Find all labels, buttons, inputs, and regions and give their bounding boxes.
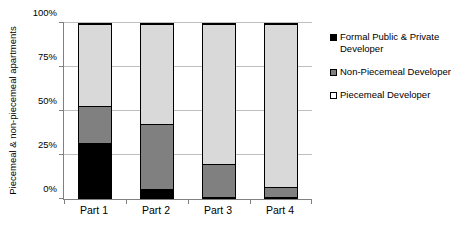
x-axis-label: Part 2 [125,203,187,217]
x-axis-label: Part 3 [187,203,249,217]
bar-slot [188,23,250,199]
bar-segment[interactable] [203,197,235,199]
stacked-bar[interactable] [264,23,298,199]
stacked-bar[interactable] [78,23,112,199]
x-tick-mark [311,199,312,204]
y-tick-label: 100% [33,8,64,18]
stacked-bar[interactable] [140,23,174,199]
stacked-bar[interactable] [202,23,236,199]
bar-slot [64,23,126,199]
x-axis-label: Part 4 [249,203,311,217]
stacked-bar-chart: Piecemeal & non-piecemeal apartments 0%2… [0,0,456,236]
y-tick-label: 50% [38,96,64,106]
bar-segment[interactable] [203,164,235,197]
bar-segment[interactable] [265,24,297,187]
legend-item[interactable]: Formal Public & Private Developer [330,31,454,55]
bar-segment[interactable] [141,24,173,124]
y-tick-label: 75% [38,52,64,62]
legend-swatch-icon [330,69,337,76]
legend-item[interactable]: Piecemeal Developer [330,89,454,101]
legend-label: Piecemeal Developer [340,89,430,101]
bar-segment[interactable] [79,143,111,199]
bar-segment[interactable] [265,197,297,199]
x-axis-labels: Part 1Part 2Part 3Part 4 [63,203,311,217]
bar-segment[interactable] [79,106,111,143]
bar-group [64,23,312,199]
legend-item[interactable]: Non-Piecemeal Developer [330,66,454,78]
legend-label: Non-Piecemeal Developer [340,66,451,78]
bar-segment[interactable] [141,189,173,200]
bar-segment[interactable] [79,24,111,106]
y-tick-label: 0% [43,184,64,194]
bar-slot [250,23,312,199]
y-axis-title: Piecemeal & non-piecemeal apartments [7,16,18,206]
plot-area: 0%25%50%75%100% [63,23,312,200]
y-tick-label: 25% [38,140,64,150]
bar-segment[interactable] [203,24,235,164]
bar-segment[interactable] [141,124,173,189]
bar-segment[interactable] [265,187,297,198]
bar-slot [126,23,188,199]
legend-swatch-icon [330,92,337,99]
legend-label: Formal Public & Private Developer [340,31,454,55]
x-axis-label: Part 1 [63,203,125,217]
chart-legend: Formal Public & Private DeveloperNon-Pie… [330,31,454,112]
legend-swatch-icon [330,34,337,41]
